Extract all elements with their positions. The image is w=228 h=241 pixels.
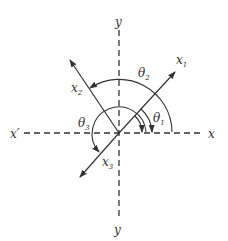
x2-label: x2 <box>71 81 83 97</box>
y-top-label: y <box>114 15 122 29</box>
x-label: x <box>208 127 215 141</box>
x3-label: x3 <box>102 155 114 171</box>
theta3-label: θ3 <box>78 116 90 132</box>
rotation-diagram: y y x x′ x1 x2 x3 θ1 θ2 θ3 <box>0 0 228 241</box>
x-neg-label: x′ <box>10 127 20 141</box>
theta2-label: θ2 <box>138 66 150 82</box>
theta1-label: θ1 <box>153 111 165 127</box>
y-bottom-label: y <box>113 223 121 237</box>
x1-label: x1 <box>176 53 187 69</box>
